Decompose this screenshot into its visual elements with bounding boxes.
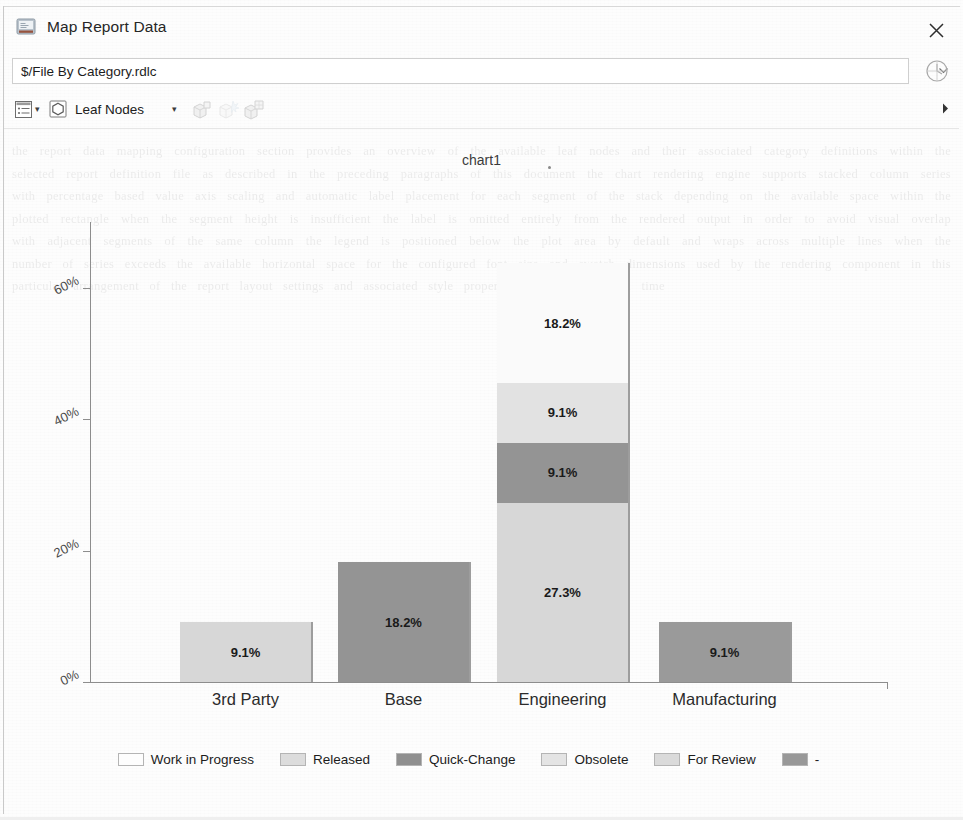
legend-item[interactable]: For Review	[654, 752, 755, 767]
legend-swatch	[396, 753, 422, 766]
history-clock-icon[interactable]	[922, 56, 952, 86]
legend-label: Work in Progress	[151, 752, 254, 767]
legend-label: Quick-Change	[429, 752, 515, 767]
window-title: Map Report Data	[47, 18, 167, 36]
bar-right-edge	[311, 622, 313, 682]
x-axis-line	[90, 682, 888, 683]
legend-swatch	[782, 753, 808, 766]
legend-swatch	[541, 753, 567, 766]
legend-label: Obsolete	[574, 752, 628, 767]
bar-right-edge	[790, 622, 792, 682]
x-axis-category-label: Engineering	[469, 690, 656, 709]
legend-item[interactable]: Quick-Change	[396, 752, 515, 767]
legend-label: -	[815, 752, 820, 767]
bar-right-edge	[628, 263, 630, 682]
map-report-data-window: the report data mapping configuration se…	[0, 0, 963, 820]
y-axis-tick	[83, 419, 91, 420]
legend-item[interactable]: Released	[280, 752, 370, 767]
overflow-arrow-icon[interactable]	[939, 100, 951, 116]
legend-swatch	[654, 753, 680, 766]
bar-segment[interactable]: 9.1%	[180, 622, 311, 682]
legend-label: Released	[313, 752, 370, 767]
package-box-icon[interactable]	[191, 96, 214, 122]
path-bar: $/File By Category.rdlc	[4, 56, 959, 86]
leaf-nodes-label[interactable]: Leaf Nodes	[75, 102, 144, 117]
y-axis-tick	[83, 288, 91, 289]
x-axis-end-tick	[887, 682, 888, 689]
y-axis-tick-label: 0%	[23, 667, 82, 706]
bar-segment-value-label: 18.2%	[385, 615, 422, 630]
report-path-input[interactable]: $/File By Category.rdlc	[12, 58, 909, 84]
legend-swatch	[118, 753, 144, 766]
report-list-dropdown-caret[interactable]: ▾	[33, 96, 42, 122]
legend-label: For Review	[687, 752, 755, 767]
bar-segment-value-label: 9.1%	[548, 465, 578, 480]
bar-segment-value-label: 9.1%	[231, 645, 261, 660]
bar-segment-value-label: 9.1%	[710, 645, 740, 660]
bar-segment[interactable]: 18.2%	[497, 263, 628, 383]
chart-canvas: chart1 0%20%40%60% 9.1%18.2%27.3%9.1%9.1…	[0, 130, 963, 820]
legend-swatch	[280, 753, 306, 766]
bar-segment-value-label: 18.2%	[544, 316, 581, 331]
bar-segment[interactable]: 9.1%	[659, 622, 790, 682]
close-icon[interactable]	[921, 17, 951, 43]
toolbar: ▾ Leaf Nodes ▾	[4, 92, 959, 126]
y-axis-line	[90, 222, 91, 683]
bar-segment[interactable]: 9.1%	[497, 443, 628, 503]
hexagon-node-icon[interactable]	[48, 96, 68, 122]
y-axis-tick-label: 20%	[23, 535, 82, 574]
bar-right-edge	[469, 562, 471, 682]
legend-item[interactable]: -	[782, 752, 820, 767]
report-list-icon[interactable]	[14, 96, 33, 122]
bar-segment-value-label: 9.1%	[548, 405, 578, 420]
legend-item[interactable]: Obsolete	[541, 752, 628, 767]
bar-segment[interactable]: 18.2%	[338, 562, 469, 682]
bar-segment[interactable]: 27.3%	[497, 503, 628, 682]
title-bar: Map Report Data	[4, 7, 959, 47]
bar-segment[interactable]: 9.1%	[497, 383, 628, 443]
bar-segment-value-label: 27.3%	[544, 585, 581, 600]
leaf-nodes-dropdown-caret[interactable]: ▾	[170, 96, 179, 122]
package-stack-icon[interactable]	[243, 96, 266, 122]
y-axis-tick	[83, 682, 91, 683]
chart-legend: Work in ProgressReleasedQuick-ChangeObso…	[0, 752, 963, 767]
report-window-icon	[16, 17, 38, 37]
toolbar-separator	[4, 128, 959, 129]
y-axis-tick-label: 40%	[23, 404, 82, 443]
package-burst-icon[interactable]	[217, 96, 240, 122]
x-axis-category-label: Manufacturing	[631, 690, 818, 709]
y-axis-tick-label: 60%	[23, 272, 82, 311]
legend-item[interactable]: Work in Progress	[118, 752, 254, 767]
plot-area: 0%20%40%60% 9.1%18.2%27.3%9.1%9.1%18.2%9…	[0, 130, 963, 820]
y-axis-tick	[83, 551, 91, 552]
